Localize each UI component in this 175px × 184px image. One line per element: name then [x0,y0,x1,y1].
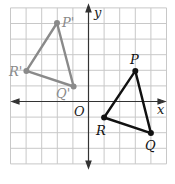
label-p: P [129,52,139,67]
vertex-p [132,68,138,74]
origin-label: O [74,104,85,119]
x-axis-label: x [157,102,165,117]
vertex-q [148,130,154,136]
axes [12,5,165,168]
coordinate-plane: y x O P' Q' R' P Q R [0,0,175,184]
vertex-r [101,115,107,121]
label-q: Q [145,138,156,153]
y-axis-label: y [93,5,102,20]
label-q-prime: Q' [56,86,70,101]
label-p-prime: P' [61,15,74,30]
x-axis-left-arrow-icon [12,99,19,104]
y-axis-bottom-arrow-icon [86,161,91,168]
triangle-image: P' Q' R' [8,15,77,101]
vertex-q-prime [71,84,77,90]
y-axis-top-arrow-icon [86,5,91,12]
label-r-prime: R' [8,64,22,79]
vertex-p-prime [54,20,60,26]
label-r: R [95,123,106,138]
vertex-r-prime [23,68,29,74]
